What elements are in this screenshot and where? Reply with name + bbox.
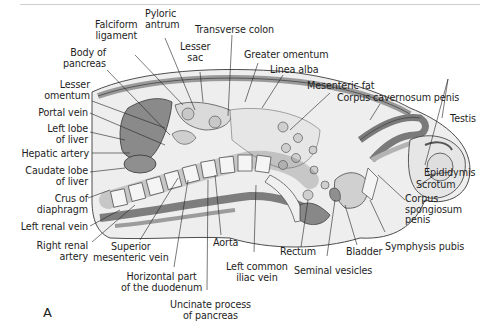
label-line: Left lobe bbox=[20, 124, 88, 135]
label-left-renal-vein: Left renal vein bbox=[10, 222, 88, 233]
label-testis: Testis bbox=[450, 114, 476, 125]
label-mesenteric-fat: Mesenteric fat bbox=[307, 81, 374, 92]
label-line: penis bbox=[405, 215, 462, 226]
label-left-lobe-of-liver: Left lobe of liver bbox=[20, 124, 88, 145]
label-caudate-lobe-of-liver: Caudate lobe of liver bbox=[10, 166, 88, 187]
label-line: mesenteric vein bbox=[93, 253, 169, 264]
label-line: artery bbox=[20, 252, 88, 263]
label-transverse-colon: Transverse colon bbox=[195, 25, 274, 36]
label-linea-alba: Linea alba bbox=[270, 65, 318, 76]
label-line: diaphragm bbox=[20, 205, 88, 216]
label-line: Uncinate process bbox=[170, 300, 251, 311]
label-seminal-vesicles: Seminal vesicles bbox=[294, 266, 372, 277]
label-line: Lesser bbox=[30, 80, 90, 91]
label-scrotum: Scrotum bbox=[416, 180, 455, 191]
label-lesser-omentum: Lesser omentum bbox=[30, 80, 90, 101]
label-lesser-sac: Lesser sac bbox=[180, 42, 210, 63]
label-line: pancreas bbox=[48, 59, 106, 70]
label-corpus-spongiosum-penis: Corpus spongiosum penis bbox=[405, 194, 462, 226]
label-line: sac bbox=[180, 53, 210, 64]
label-pyloric-antrum: Pyloric antrum bbox=[145, 9, 180, 30]
label-line: Right renal bbox=[20, 241, 88, 252]
label-line: antrum bbox=[145, 20, 180, 31]
label-falciform-ligament: Falciform ligament bbox=[95, 20, 138, 41]
label-aorta: Aorta bbox=[213, 238, 238, 249]
label-hepatic-artery: Hepatic artery bbox=[5, 149, 89, 160]
label-line: Body of bbox=[48, 48, 106, 59]
label-line: of liver bbox=[10, 177, 88, 188]
label-portal-vein: Portal vein bbox=[20, 108, 88, 119]
label-line: iliac vein bbox=[226, 273, 288, 284]
label-superior-mesenteric-vein: Superior mesenteric vein bbox=[93, 242, 169, 263]
label-line: omentum bbox=[30, 91, 90, 102]
label-rectum: Rectum bbox=[280, 247, 316, 258]
caudate-lobe bbox=[124, 155, 156, 173]
label-line: Caudate lobe bbox=[10, 166, 88, 177]
label-corpus-cavernosum-penis: Corpus cavernosum penis bbox=[337, 93, 459, 104]
label-horizontal-part-duodenum: Horizontal part of the duodenum bbox=[121, 272, 202, 293]
label-bladder: Bladder bbox=[346, 247, 382, 258]
label-epididymis: Epididymis bbox=[424, 168, 475, 179]
label-line: Left common bbox=[226, 262, 288, 273]
label-right-renal-artery: Right renal artery bbox=[20, 241, 88, 262]
panel-letter: A bbox=[43, 305, 52, 320]
label-greater-omentum: Greater omentum bbox=[244, 50, 329, 61]
label-line: of pancreas bbox=[170, 311, 251, 322]
label-line: Pyloric bbox=[145, 9, 180, 20]
label-line: Horizontal part bbox=[121, 272, 202, 283]
label-left-common-iliac-vein: Left common iliac vein bbox=[226, 262, 288, 283]
label-line: Crus of bbox=[20, 194, 88, 205]
label-line: Corpus bbox=[405, 194, 462, 205]
label-line: ligament bbox=[95, 31, 138, 42]
label-line: Lesser bbox=[180, 42, 210, 53]
label-line: Falciform bbox=[95, 20, 138, 31]
label-line: of the duodenum bbox=[121, 283, 202, 294]
label-crus-of-diaphragm: Crus of diaphragm bbox=[20, 194, 88, 215]
label-line: Superior bbox=[93, 242, 169, 253]
label-symphysis-pubis: Symphysis pubis bbox=[385, 242, 464, 253]
label-body-of-pancreas: Body of pancreas bbox=[48, 48, 106, 69]
label-line: of liver bbox=[20, 135, 88, 146]
label-uncinate-process-pancreas: Uncinate process of pancreas bbox=[170, 300, 251, 321]
